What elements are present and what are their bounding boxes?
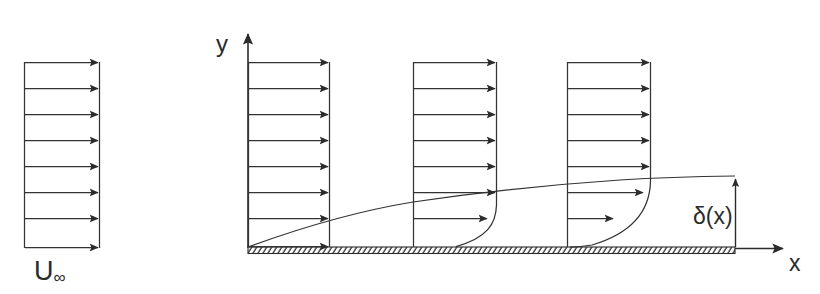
- boundary-layer-curve: [248, 176, 735, 247]
- profile-station-1: [249, 62, 330, 247]
- profile-station-3: [568, 62, 651, 247]
- x-axis-label: x: [789, 252, 801, 275]
- freestream-velocity-symbol: U: [34, 256, 54, 286]
- delta-thickness-label: δ(x): [693, 205, 733, 228]
- velocity-arrows: [414, 63, 495, 219]
- infinity-subscript: ∞: [54, 268, 66, 287]
- flat-plate-wall: [248, 247, 735, 254]
- wall-hatching: [248, 247, 735, 254]
- velocity-arrows: [568, 63, 649, 219]
- profile-shear-curve: [570, 181, 651, 247]
- boundary-layer-figure: U∞ y x δ(x): [0, 0, 820, 294]
- freestream-velocity-label: U∞: [34, 258, 66, 286]
- profile-station-2: [414, 62, 497, 247]
- y-axis-label: y: [216, 32, 228, 56]
- profile-shear-curve: [456, 205, 497, 247]
- velocity-arrows: [25, 63, 98, 248]
- freestream-uniform-profile: [25, 62, 100, 248]
- figure-canvas: [0, 0, 820, 294]
- velocity-arrows: [249, 63, 328, 247]
